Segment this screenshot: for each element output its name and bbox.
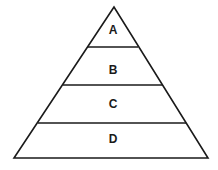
level-label-c: C: [109, 97, 118, 111]
level-label-a: A: [109, 23, 118, 37]
level-label-b: B: [109, 63, 118, 77]
pyramid-diagram: A B C D: [0, 0, 218, 170]
level-label-d: D: [109, 132, 118, 146]
